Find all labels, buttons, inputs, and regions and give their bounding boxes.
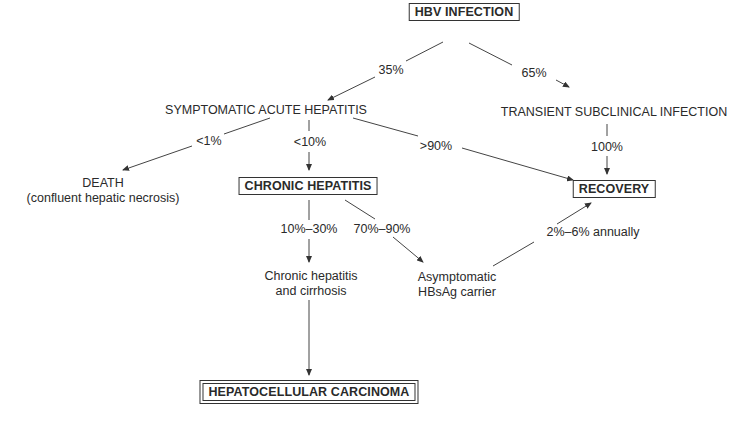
edge-lines — [0, 0, 739, 421]
edge-label-65: 65% — [521, 66, 546, 81]
node-chronic-hepatitis: CHRONIC HEPATITIS — [239, 177, 378, 195]
edge-label-gt90: >90% — [420, 139, 452, 154]
node-hepatocellular-carcinoma: HEPATOCELLULAR CARCINOMA — [199, 380, 418, 404]
node-hbv-infection: HBV INFECTION — [409, 3, 520, 21]
edge-label-lt10: <10% — [294, 135, 326, 150]
node-recovery: RECOVERY — [573, 180, 656, 198]
edge-label-2-6-annually: 2%–6% annually — [546, 225, 639, 240]
node-death: DEATH — [82, 176, 123, 191]
edge-label-10-30: 10%–30% — [281, 222, 338, 237]
node-chronic-cirrhosis-line1: Chronic hepatitis — [264, 269, 357, 284]
flow-diagram: HBV INFECTION SYMPTOMATIC ACUTE HEPATITI… — [0, 0, 739, 421]
edge-label-100: 100% — [591, 140, 623, 155]
node-chronic-cirrhosis-line2: and cirrhosis — [276, 284, 347, 299]
node-recovery-label: RECOVERY — [579, 182, 650, 196]
node-transient-subclinical-infection: TRANSIENT SUBCLINICAL INFECTION — [501, 105, 727, 120]
node-carrier-line1: Asymptomatic — [418, 270, 497, 285]
edge-label-35: 35% — [378, 63, 403, 78]
node-death-subtitle: (confluent hepatic necrosis) — [27, 191, 180, 206]
edge-label-70-90: 70%–90% — [354, 222, 411, 237]
node-hbv-infection-label: HBV INFECTION — [415, 5, 514, 19]
node-hcc-label: HEPATOCELLULAR CARCINOMA — [202, 383, 415, 401]
node-carrier-line2: HBsAg carrier — [418, 285, 496, 300]
node-symptomatic-acute-hepatitis: SYMPTOMATIC ACUTE HEPATITIS — [165, 103, 367, 118]
edge-label-lt1: <1% — [196, 134, 221, 149]
node-chronic-hepatitis-label: CHRONIC HEPATITIS — [245, 179, 372, 193]
